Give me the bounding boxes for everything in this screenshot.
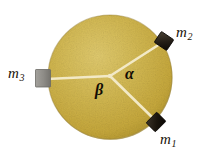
- angle-label-beta: β: [95, 82, 103, 98]
- mass-label-m2-subscript: 2: [188, 31, 193, 42]
- mass-block-m3: [36, 70, 51, 88]
- mass-label-m1-symbol: m: [160, 131, 171, 147]
- mass-label-m1-subscript: 1: [172, 138, 177, 149]
- mass-label-m3-subscript: 3: [20, 72, 25, 83]
- spoke-hub: [108, 74, 112, 78]
- mass-label-m2-symbol: m: [176, 24, 187, 40]
- mass-label-m3-symbol: m: [8, 65, 19, 81]
- physics-figure-disk-with-masses: m3 m2 m1 α β: [0, 0, 211, 157]
- mass-label-m2: m2: [176, 25, 192, 40]
- mass-label-m1: m1: [160, 132, 176, 147]
- mass-label-m3: m3: [8, 66, 24, 81]
- angle-label-alpha: α: [125, 66, 134, 82]
